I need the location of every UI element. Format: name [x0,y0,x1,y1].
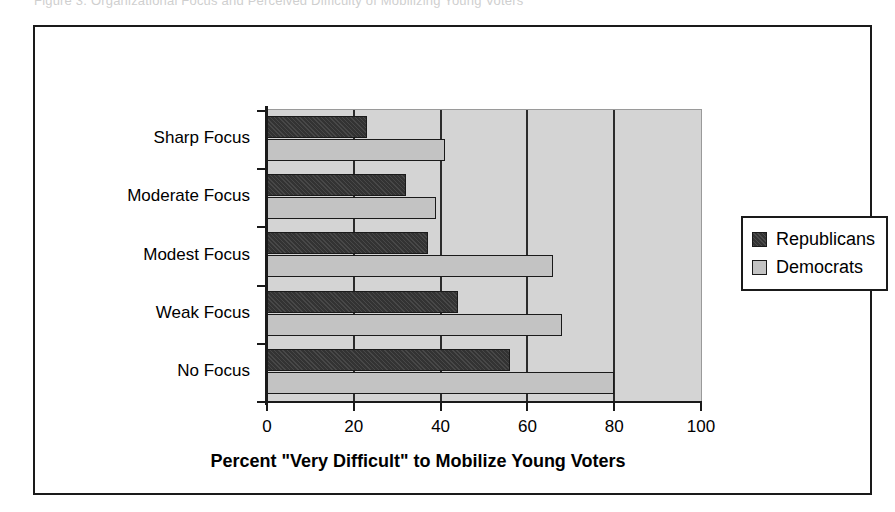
figure-caption-cropped: Figure 3. Organizational Focus and Perce… [34,0,523,8]
bar-republicans-weak-focus [267,291,458,313]
legend-label-democrats: Democrats [776,257,863,278]
democrats-swatch-icon [752,260,767,275]
bar-democrats-no-focus [267,372,614,394]
value-label-20: 20 [324,417,384,437]
category-label-modest-focus: Modest Focus [60,245,250,265]
bar-democrats-moderate-focus [267,197,436,219]
bar-democrats-sharp-focus [267,139,445,161]
value-axis-line [265,106,268,405]
legend-item-democrats[interactable]: Democrats [752,253,875,281]
value-label-40: 40 [411,417,471,437]
value-label-100: 100 [671,417,731,437]
plot-area-right-border [701,109,702,402]
value-label-0: 0 [237,417,297,437]
value-tick-20 [353,402,355,411]
category-tick-2 [257,226,267,228]
category-tick-3 [257,285,267,287]
category-tick-4 [257,343,267,345]
value-tick-0 [266,402,268,411]
category-axis-line [265,401,702,403]
bar-republicans-no-focus [267,349,510,371]
bar-democrats-weak-focus [267,314,562,336]
value-tick-100 [700,402,702,411]
category-tick-0 [257,110,267,112]
category-label-moderate-focus: Moderate Focus [60,186,250,206]
category-axis-labels: Sharp FocusModerate FocusModest FocusWea… [60,27,250,497]
category-label-no-focus: No Focus [60,361,250,381]
bar-republicans-modest-focus [267,232,428,254]
value-tick-80 [613,402,615,411]
chart-figure-frame: Sharp FocusModerate FocusModest FocusWea… [33,25,872,495]
bar-republicans-moderate-focus [267,174,406,196]
category-label-weak-focus: Weak Focus [60,303,250,323]
value-label-80: 80 [584,417,644,437]
plot-area-top-border [267,109,702,110]
gridline-80 [613,110,615,401]
bar-democrats-modest-focus [267,255,553,277]
x-axis-title: Percent "Very Difficult" to Mobilize You… [68,451,768,472]
republicans-swatch-icon [752,232,767,247]
category-label-sharp-focus: Sharp Focus [60,128,250,148]
bar-republicans-sharp-focus [267,116,367,138]
value-tick-40 [440,402,442,411]
value-tick-60 [526,402,528,411]
category-tick-1 [257,168,267,170]
legend-label-republicans: Republicans [776,229,875,250]
chart-legend: Republicans Democrats [741,216,888,291]
legend-item-republicans[interactable]: Republicans [752,225,875,253]
value-label-60: 60 [497,417,557,437]
